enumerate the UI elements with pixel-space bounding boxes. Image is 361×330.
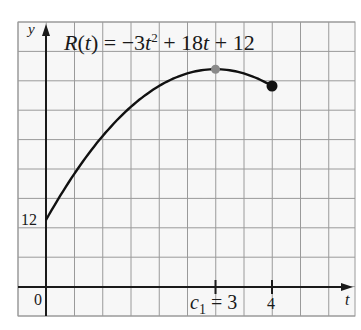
- x-tick-label-4: 4: [267, 296, 275, 312]
- t-axis-label: t: [345, 292, 349, 308]
- y-tick-label-12: 12: [21, 212, 37, 228]
- grid-lines: [18, 22, 355, 316]
- y-axis-label: y: [28, 22, 35, 37]
- c1-value: = 3: [206, 291, 237, 313]
- max-point: [211, 65, 220, 74]
- chart-title: R(t) = −3t2 + 18t + 12: [64, 31, 255, 54]
- c1-subscript: 1: [199, 302, 206, 317]
- origin-label: 0: [34, 292, 42, 308]
- end-point: [267, 81, 278, 92]
- x-tick-label-c1: c1 = 3: [190, 292, 237, 317]
- title-exponent: 2: [151, 30, 158, 45]
- c1-base: c: [190, 291, 199, 313]
